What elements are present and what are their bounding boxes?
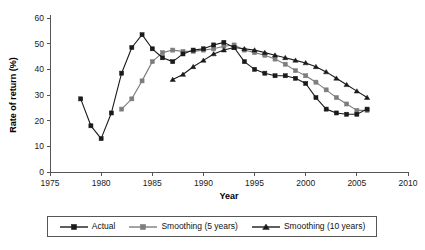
legend-item-label: Smoothing (5 years)	[161, 222, 238, 231]
chart-data-point	[345, 102, 349, 106]
y-axis-ticks: 0102030405060	[35, 13, 50, 177]
chart-data-point	[314, 80, 318, 84]
chart-legend: ActualSmoothing (5 years)Smoothing (10 y…	[47, 216, 377, 237]
y-tick-label: 0	[39, 167, 44, 177]
chart-data-point	[273, 57, 277, 61]
chart-data-point	[171, 48, 175, 52]
legend-marker-square-icon	[128, 221, 158, 233]
x-tick-label: 1985	[143, 178, 162, 188]
legend-item[interactable]: Actual	[59, 221, 116, 233]
chart-data-point	[150, 47, 154, 51]
chart-data-point	[355, 112, 359, 116]
chart-data-point	[79, 97, 83, 101]
y-tick-label: 10	[35, 141, 45, 151]
chart-data-point	[283, 74, 287, 78]
y-axis-title: Rate of return (%)	[8, 57, 18, 133]
chart-data-point	[222, 40, 226, 44]
chart-data-point	[191, 48, 195, 52]
chart-series	[170, 45, 370, 99]
chart-data-point	[130, 97, 134, 101]
legend-item-label: Smoothing (10 years)	[284, 222, 365, 231]
legend-marker-square-icon	[59, 221, 89, 233]
chart-data-point	[160, 51, 164, 55]
chart-data-point	[263, 71, 267, 75]
x-tick-label: 2000	[296, 178, 315, 188]
x-axis-ticks: 19751980198519901995200020052010	[41, 172, 418, 188]
x-axis-title: Year	[219, 191, 239, 201]
chart-plot-area: 0102030405060 19751980198519901995200020…	[0, 0, 425, 250]
chart-data-point	[120, 71, 124, 75]
chart-data-point	[232, 45, 236, 49]
chart-data-point	[293, 76, 297, 80]
chart-data-point	[304, 74, 308, 78]
legend-item[interactable]: Smoothing (5 years)	[128, 221, 238, 233]
x-tick-label: 2005	[347, 178, 366, 188]
chart-data-point	[109, 111, 113, 115]
chart-data-point	[140, 33, 144, 37]
chart-data-point	[140, 79, 144, 83]
y-tick-label: 20	[35, 116, 45, 126]
x-tick-label: 1990	[194, 178, 213, 188]
chart-data-point	[355, 108, 359, 112]
chart-data-point	[324, 69, 329, 73]
y-tick-label: 50	[35, 39, 45, 49]
x-tick-label: 1980	[92, 178, 111, 188]
legend-item[interactable]: Smoothing (10 years)	[251, 221, 365, 233]
x-tick-label: 2010	[399, 178, 418, 188]
y-tick-label: 30	[35, 90, 45, 100]
chart-data-point	[334, 96, 338, 100]
chart-data-point	[365, 107, 369, 111]
chart-data-point	[242, 60, 246, 64]
chart-data-point	[130, 45, 134, 49]
chart-data-point	[171, 60, 175, 64]
chart-data-point	[324, 107, 328, 111]
x-tick-label: 1975	[41, 178, 60, 188]
chart-data-point	[314, 96, 318, 100]
chart-data-point	[253, 67, 257, 71]
chart-data-point	[150, 60, 154, 64]
chart-data-point	[160, 56, 164, 60]
chart-data-point	[304, 81, 308, 85]
chart-data-point	[170, 77, 175, 81]
x-tick-label: 1995	[245, 178, 264, 188]
legend-marker-triangle-icon	[251, 221, 281, 233]
legend-item-label: Actual	[92, 222, 116, 231]
chart-figure: 0102030405060 19751980198519901995200020…	[0, 0, 425, 250]
chart-series-group	[79, 33, 370, 141]
chart-data-point	[345, 112, 349, 116]
chart-data-point	[99, 137, 103, 141]
chart-data-point	[181, 52, 185, 56]
chart-data-point	[212, 43, 216, 47]
chart-data-point	[293, 69, 297, 73]
chart-data-point	[283, 62, 287, 66]
y-tick-label: 60	[35, 13, 45, 23]
chart-data-point	[89, 124, 93, 128]
chart-data-point	[273, 74, 277, 78]
chart-data-point	[201, 47, 205, 51]
chart-data-point	[120, 107, 124, 111]
chart-data-point	[334, 111, 338, 115]
chart-data-point	[212, 47, 216, 51]
chart-data-point	[324, 88, 328, 92]
y-tick-label: 40	[35, 64, 45, 74]
